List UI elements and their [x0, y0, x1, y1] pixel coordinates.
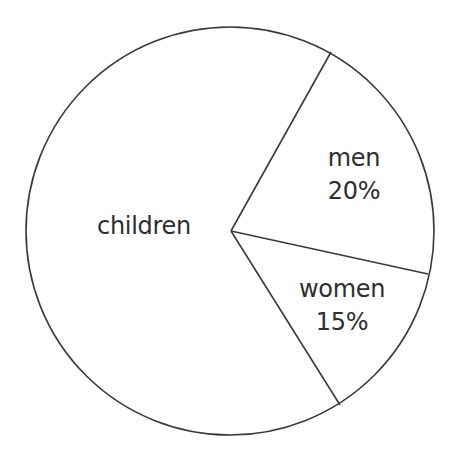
slice-label-children: children — [97, 213, 191, 240]
pie-outline — [26, 27, 434, 435]
slice-label-women: women 15% — [299, 276, 385, 336]
women-label: women — [299, 276, 385, 303]
pie-chart — [0, 0, 458, 472]
slice-label-men: men 20% — [328, 145, 380, 205]
children-label: children — [97, 213, 191, 240]
men-label: men — [328, 145, 380, 172]
men-percentage: 20% — [328, 178, 380, 205]
women-percentage: 15% — [299, 309, 385, 336]
